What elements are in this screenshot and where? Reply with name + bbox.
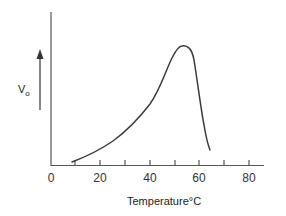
x-tick-label-60: 60 (192, 171, 206, 185)
x-axis-title-text: Temperature (127, 195, 189, 207)
x-tick-label-40: 40 (143, 171, 157, 185)
x-tick-label-0: 0 (48, 171, 55, 185)
y-axis-title: Vo (18, 83, 30, 98)
y-axis-subscript: o (25, 89, 30, 98)
increase-arrow-icon (37, 49, 44, 110)
x-tick-label-80: 80 (242, 171, 256, 185)
x-tick-label-20: 20 (93, 171, 107, 185)
chart: 0 20 40 60 80 Temperature°C Vo (0, 0, 286, 216)
x-axis-unit: °C (189, 195, 201, 207)
data-curve (72, 46, 210, 162)
x-axis-title: Temperature°C (127, 195, 201, 207)
x-ticks (75, 160, 249, 165)
